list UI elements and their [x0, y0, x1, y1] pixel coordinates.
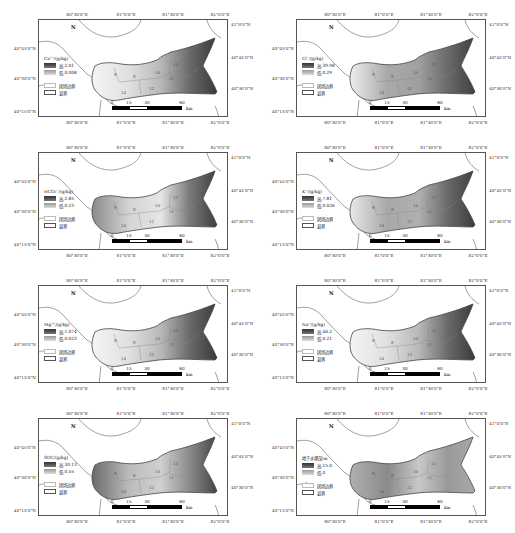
lat-tick-left: 40°30'0"N	[0, 209, 36, 214]
legend-low-swatch	[302, 470, 314, 475]
lon-tick-bottom: 80°30'0"E	[66, 120, 88, 125]
region-label: 13	[431, 328, 437, 333]
lat-tick-right: 40°30'0"N	[489, 352, 511, 357]
scale-label: 30	[144, 366, 149, 371]
legend-county-swatch	[302, 90, 314, 95]
lat-tick-right: 40°45'0"N	[231, 188, 253, 193]
region-label: 11	[169, 342, 174, 347]
legend-high-swatch	[44, 63, 56, 68]
lon-tick-top: 81°0'0"E	[375, 145, 394, 150]
scale-unit: km	[186, 106, 193, 111]
map-panel-cl: 80°30'0"E 81°0'0"E 81°30'0"E 82°0'0"E 80…	[258, 0, 515, 133]
lon-tick-bottom: 81°30'0"E	[420, 253, 442, 258]
north-arrow-icon: N	[71, 290, 76, 296]
legend-low-value: 0	[322, 470, 325, 475]
north-arrow-icon: N	[329, 24, 334, 30]
legend-county-swatch	[44, 489, 56, 494]
legend-high-swatch	[302, 196, 314, 201]
lat-tick-right: 40°30'0"N	[231, 86, 253, 91]
scale-label: 0	[111, 366, 114, 371]
lon-tick-bottom: 81°30'0"E	[162, 519, 184, 524]
region-label: 12	[407, 219, 413, 224]
lon-tick-bottom: 81°0'0"E	[375, 120, 394, 125]
region-label: 13	[431, 62, 437, 67]
lat-tick-right: 40°45'0"N	[231, 454, 253, 459]
lon-tick-top: 82°0'0"E	[211, 145, 230, 150]
region-label: 10	[413, 469, 419, 474]
region-label: 14	[379, 489, 385, 494]
legend-low-swatch	[44, 336, 56, 341]
map-legend: Ca²⁺/(g/kg) 高: 2.01 低: 0.008 团场边界 县界	[44, 56, 77, 96]
lon-tick-top: 81°30'0"E	[162, 278, 184, 283]
map-panel-mg: 80°30'0"E 81°0'0"E 81°30'0"E 82°0'0"E 80…	[0, 266, 257, 399]
map-panel-k: 80°30'0"E 81°0'0"E 81°30'0"E 82°0'0"E 80…	[258, 133, 515, 266]
lat-tick-right: 41°0'0"N	[231, 288, 251, 293]
legend-county-swatch	[302, 223, 314, 228]
lon-tick-bottom: 81°30'0"E	[420, 519, 442, 524]
lat-tick-right: 40°45'0"N	[489, 55, 511, 60]
lon-tick-bottom: 81°0'0"E	[117, 386, 136, 391]
lat-tick-right: 40°30'0"N	[489, 485, 511, 490]
lon-tick-bottom: 80°30'0"E	[324, 120, 346, 125]
lon-tick-top: 81°30'0"E	[420, 145, 442, 150]
scale-label: 60	[437, 366, 442, 371]
lat-tick-right: 40°45'0"N	[489, 188, 511, 193]
lon-tick-bottom: 81°0'0"E	[375, 386, 394, 391]
legend-high-value: 39.98	[322, 63, 334, 68]
lat-tick-right: 41°0'0"N	[231, 22, 251, 27]
scale-label: 30	[144, 499, 149, 504]
map-legend: SOC/(g/kg) 高: 30.13 低: 0.55 团场边界 县界	[44, 455, 77, 495]
region-label: 14	[379, 223, 385, 228]
lat-tick-left: 40°45'0"N	[258, 445, 294, 450]
lat-tick-left: 40°15'0"N	[258, 508, 294, 513]
scale-label: 15	[126, 233, 131, 238]
lat-tick-right: 40°45'0"N	[489, 321, 511, 326]
lat-tick-right: 41°0'0"N	[231, 421, 251, 426]
region-label: 10	[155, 336, 161, 341]
legend-boundary-label: 团场边界	[317, 83, 333, 89]
map-legend: Mg²⁺/(g/kg) 高: 1.074 低: 0.023 团场边界 县界	[44, 322, 77, 362]
legend-title: HCO₃⁻/(g/kg)	[44, 189, 75, 194]
lon-tick-top: 82°0'0"E	[469, 12, 488, 17]
region-label: 13	[431, 195, 437, 200]
scale-label: 30	[402, 366, 407, 371]
legend-boundary-swatch	[302, 83, 314, 88]
legend-boundary-swatch	[44, 83, 56, 88]
legend-boundary-label: 团场边界	[59, 482, 75, 488]
legend-county-swatch	[44, 223, 56, 228]
lon-tick-top: 81°0'0"E	[375, 411, 394, 416]
lat-tick-right: 41°0'0"N	[489, 421, 509, 426]
lon-tick-bottom: 82°0'0"E	[469, 253, 488, 258]
lat-tick-left: 40°45'0"N	[258, 46, 294, 51]
legend-low-swatch	[302, 70, 314, 75]
legend-boundary-swatch	[44, 349, 56, 354]
legend-county-label: 县界	[317, 223, 325, 229]
scale-label: 15	[126, 366, 131, 371]
legend-boundary-label: 团场边界	[317, 216, 333, 222]
lon-tick-bottom: 82°0'0"E	[469, 519, 488, 524]
lat-tick-left: 40°45'0"N	[0, 179, 36, 184]
legend-title: Na⁺/(g/kg)	[302, 322, 333, 327]
region-label: 11	[427, 475, 432, 480]
scale-bar: 0 15 30 60 km	[112, 499, 182, 509]
legend-county-label: 县界	[317, 356, 325, 362]
region-label: 11	[169, 76, 174, 81]
lon-tick-bottom: 80°30'0"E	[66, 253, 88, 258]
lat-tick-right: 41°0'0"N	[489, 288, 509, 293]
lat-tick-left: 40°30'0"N	[0, 475, 36, 480]
scale-label: 15	[126, 100, 131, 105]
scale-label: 60	[437, 499, 442, 504]
lon-tick-bottom: 80°30'0"E	[66, 519, 88, 524]
scale-bar: 0 15 30 60 km	[370, 499, 440, 509]
lon-tick-top: 81°30'0"E	[162, 145, 184, 150]
lat-tick-right: 40°45'0"N	[231, 55, 253, 60]
legend-title: Cl⁻/(g/kg)	[302, 56, 335, 61]
region-label: 11	[427, 342, 432, 347]
scale-label: 15	[384, 499, 389, 504]
legend-low-value: 0.21	[322, 336, 332, 341]
lon-tick-bottom: 81°30'0"E	[420, 120, 442, 125]
legend-low-swatch	[302, 203, 314, 208]
scale-unit: km	[186, 505, 193, 510]
lon-tick-bottom: 80°30'0"E	[324, 253, 346, 258]
region-label: 10	[413, 336, 419, 341]
